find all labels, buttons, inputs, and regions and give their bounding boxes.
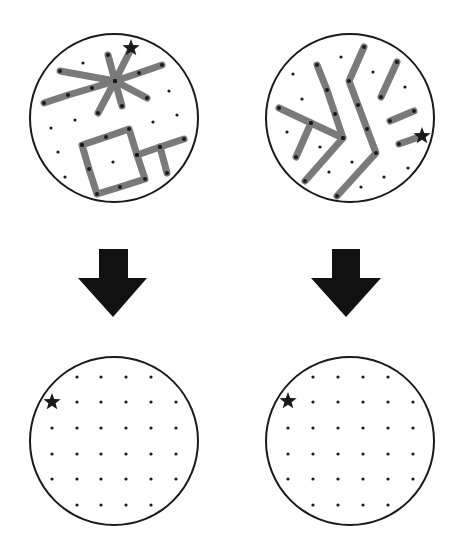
grid-dot bbox=[167, 89, 170, 92]
grid-dot bbox=[361, 477, 364, 480]
segment-node-dot bbox=[315, 63, 319, 67]
grid-dot bbox=[56, 150, 59, 153]
segment-node-dot bbox=[347, 79, 351, 83]
grid-dot bbox=[327, 170, 330, 173]
grid-dot bbox=[386, 375, 389, 378]
grid-dot bbox=[149, 375, 152, 378]
segment-node-dot bbox=[412, 109, 416, 113]
stick-segment bbox=[390, 111, 414, 121]
grid-dot bbox=[99, 477, 102, 480]
segment-node-dot bbox=[388, 119, 392, 123]
grid-dot bbox=[339, 55, 342, 58]
diagram-canvas bbox=[0, 0, 461, 550]
down-arrow-icon-left bbox=[78, 249, 147, 317]
grid-dot bbox=[382, 175, 385, 178]
grid-dot bbox=[99, 426, 102, 429]
grid-dot bbox=[286, 477, 289, 480]
segment-node-dot bbox=[42, 101, 46, 105]
grid-dot bbox=[371, 70, 374, 73]
grid-dot bbox=[291, 72, 294, 75]
grid-dot bbox=[285, 130, 288, 133]
segment-node-dot bbox=[106, 53, 110, 57]
grid-dot bbox=[124, 426, 127, 429]
segment-node-dot bbox=[397, 142, 401, 146]
grid-dot bbox=[124, 375, 127, 378]
grid-dot bbox=[411, 452, 414, 455]
grid-dot bbox=[386, 426, 389, 429]
grid-dot bbox=[411, 477, 414, 480]
grid-dot bbox=[386, 452, 389, 455]
grid-dot bbox=[149, 477, 152, 480]
circle-outline bbox=[30, 357, 198, 525]
down-arrow-shape bbox=[311, 249, 381, 317]
stick-segment bbox=[381, 62, 397, 97]
segment-node-dot bbox=[365, 127, 369, 131]
grid-dot bbox=[411, 400, 414, 403]
down-arrow-icon-right bbox=[311, 249, 381, 317]
grid-dot bbox=[124, 452, 127, 455]
grid-dot bbox=[361, 452, 364, 455]
segment-node-dot bbox=[341, 136, 345, 140]
grid-dot bbox=[311, 503, 314, 506]
panel-before-right bbox=[266, 34, 434, 202]
grid-dot bbox=[336, 503, 339, 506]
grid-dot bbox=[406, 166, 409, 169]
segment-node-dot bbox=[333, 112, 337, 116]
segment-node-dot bbox=[277, 106, 281, 110]
segment-node-dot bbox=[379, 95, 383, 99]
grid-dot bbox=[336, 452, 339, 455]
grid-dot bbox=[124, 400, 127, 403]
segment-node-dot bbox=[113, 79, 117, 83]
segment-node-dot bbox=[80, 143, 84, 147]
grid-dot bbox=[75, 452, 78, 455]
grid-dot bbox=[50, 477, 53, 480]
grid-dot bbox=[75, 426, 78, 429]
stick-segment bbox=[160, 147, 167, 173]
grid-dot bbox=[73, 118, 76, 121]
grid-dot bbox=[63, 175, 66, 178]
segment-node-dot bbox=[362, 45, 366, 49]
segment-node-dot bbox=[87, 167, 91, 171]
star-icon bbox=[279, 392, 296, 408]
stick-segment bbox=[337, 47, 376, 196]
circle-outline bbox=[30, 34, 198, 202]
panel-after-right bbox=[266, 357, 434, 525]
segment-node-dot bbox=[66, 93, 70, 97]
grid-dot bbox=[386, 477, 389, 480]
segment-node-dot bbox=[374, 151, 378, 155]
segment-node-dot bbox=[182, 137, 186, 141]
grid-dot bbox=[149, 426, 152, 429]
panel-after-left bbox=[30, 357, 198, 525]
segment-node-dot bbox=[158, 145, 162, 149]
segment-node-dot bbox=[135, 153, 139, 157]
grid-dot bbox=[311, 477, 314, 480]
grid-dot bbox=[99, 452, 102, 455]
segment-node-dot bbox=[96, 111, 100, 115]
grid-dot bbox=[149, 452, 152, 455]
segment-node-dot bbox=[165, 171, 169, 175]
segment-node-dot bbox=[160, 63, 164, 67]
grid-dot bbox=[318, 145, 321, 148]
grid-dot bbox=[75, 400, 78, 403]
grid-dot bbox=[336, 426, 339, 429]
segment-node-dot bbox=[294, 155, 298, 159]
grid-dot bbox=[81, 61, 84, 64]
grid-dot bbox=[50, 452, 53, 455]
grid-dot bbox=[361, 426, 364, 429]
segment-node-dot bbox=[143, 177, 147, 181]
grid-dot bbox=[361, 375, 364, 378]
grid-dot bbox=[50, 426, 53, 429]
segment-node-dot bbox=[395, 60, 399, 64]
grid-dot bbox=[311, 375, 314, 378]
segment-node-dot bbox=[137, 71, 141, 75]
segment-node-dot bbox=[58, 69, 62, 73]
segment-node-dot bbox=[104, 135, 108, 139]
grid-dot bbox=[149, 400, 152, 403]
segment-node-dot bbox=[90, 86, 94, 90]
down-arrow-shape bbox=[78, 249, 147, 317]
grid-dot bbox=[350, 160, 353, 163]
segment-node-dot bbox=[325, 88, 329, 92]
segment-node-dot bbox=[145, 96, 149, 100]
grid-dot bbox=[124, 503, 127, 506]
segment-node-dot bbox=[309, 121, 313, 125]
